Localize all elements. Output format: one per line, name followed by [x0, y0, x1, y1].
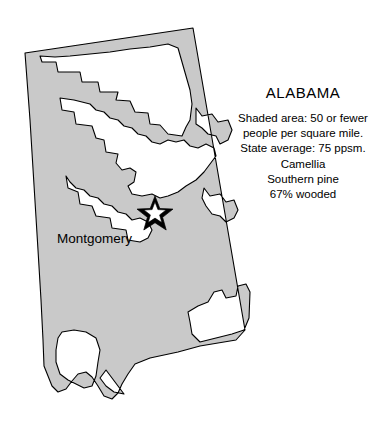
info-line-percent-wooded: 67% wooded: [222, 187, 384, 202]
alabama-state-map: [0, 0, 385, 440]
state-title: ALABAMA: [222, 84, 384, 102]
info-line-shaded-area-1: Shaded area: 50 or fewer: [222, 111, 384, 126]
state-shaded-area: [25, 28, 250, 399]
info-line-state-average: State average: 75 ppsm.: [222, 141, 384, 156]
info-line-shaded-area-2: people per square mile.: [222, 126, 384, 141]
info-line-state-tree: Southern pine: [222, 172, 384, 187]
info-line-state-flower: Camellia: [222, 157, 384, 172]
info-panel: ALABAMA Shaded area: 50 or fewer people …: [222, 84, 384, 202]
city-label-montgomery: Montgomery: [57, 231, 132, 247]
alabama-map-page: Montgomery ALABAMA Shaded area: 50 or fe…: [0, 0, 385, 440]
